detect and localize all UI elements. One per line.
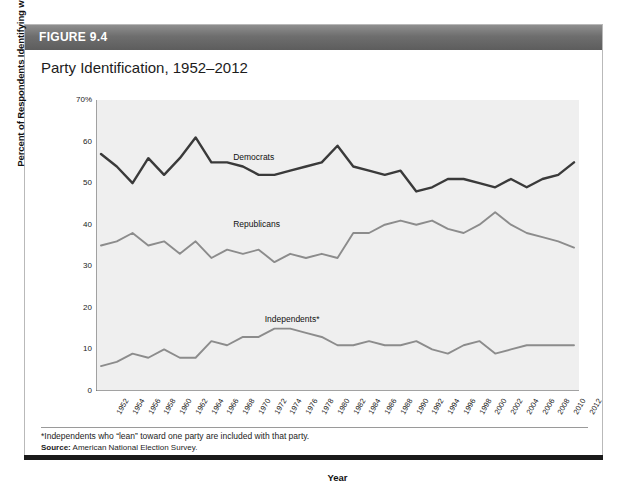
source-label: Source: xyxy=(41,443,71,452)
x-tick-label: 1982 xyxy=(351,397,367,416)
x-tick-label: 2000 xyxy=(493,397,509,416)
x-tick-label: 1976 xyxy=(304,397,320,416)
x-tick-label: 1962 xyxy=(193,397,209,416)
x-tick-label: 2004 xyxy=(524,397,540,416)
x-tick-label: 1954 xyxy=(130,397,146,416)
x-tick-label: 1958 xyxy=(162,397,178,416)
x-tick-label: 2010 xyxy=(572,397,588,416)
y-tick-label: 10 xyxy=(83,344,92,353)
figure-container: FIGURE 9.4 Party Identification, 1952–20… xyxy=(24,24,603,460)
x-tick-label: 2008 xyxy=(556,397,572,416)
chart-plot-area: 010203040506070% 19521954195619581960196… xyxy=(96,100,579,391)
x-tick-label: 1986 xyxy=(382,397,398,416)
series-label-republicans: Republicans xyxy=(233,219,280,229)
y-tick-label: 40 xyxy=(83,220,92,229)
source-line: Source: American National Election Surve… xyxy=(41,443,197,452)
x-tick-label: 1998 xyxy=(477,397,493,416)
figure-number-label: FIGURE 9.4 xyxy=(39,30,107,44)
x-tick-label: 1980 xyxy=(335,397,351,416)
x-tick-label: 1984 xyxy=(367,397,383,416)
x-tick-label: 1994 xyxy=(445,397,461,416)
figure-title: Party Identification, 1952–2012 xyxy=(41,59,248,76)
x-tick-label: 1970 xyxy=(256,397,272,416)
x-tick-label: 2012 xyxy=(587,397,603,416)
y-axis-tick-labels: 010203040506070% xyxy=(62,100,92,391)
x-tick-label: 2006 xyxy=(540,397,556,416)
x-tick-label: 2002 xyxy=(509,397,525,416)
x-tick-label: 1966 xyxy=(225,397,241,416)
x-tick-label: 1978 xyxy=(319,397,335,416)
y-tick-label: 30 xyxy=(83,261,92,270)
y-tick-label: 60 xyxy=(83,137,92,146)
x-tick-label: 1964 xyxy=(209,397,225,416)
x-tick-label: 1972 xyxy=(272,397,288,416)
figure-header-bar: FIGURE 9.4 xyxy=(25,25,602,50)
line-chart xyxy=(96,100,579,391)
bottom-rule xyxy=(24,455,603,460)
x-tick-label: 1992 xyxy=(430,397,446,416)
x-tick-label: 1988 xyxy=(398,397,414,416)
y-tick-label: 50 xyxy=(83,178,92,187)
y-axis-title: Percent of Respondents Identifying with … xyxy=(15,0,26,175)
footnote-text: *Independents who “lean” toward one part… xyxy=(41,431,309,441)
x-tick-label: 1952 xyxy=(114,397,130,416)
x-tick-label: 1974 xyxy=(288,397,304,416)
series-label-independents: Independents* xyxy=(265,314,320,324)
x-tick-label: 1990 xyxy=(414,397,430,416)
footnote-divider xyxy=(41,427,588,428)
y-tick-label: 20 xyxy=(83,303,92,312)
y-tick-label: 0 xyxy=(88,386,92,395)
x-tick-label: 1996 xyxy=(461,397,477,416)
source-text: American National Election Survey. xyxy=(73,443,198,452)
x-tick-label: 1960 xyxy=(177,397,193,416)
x-tick-label: 1956 xyxy=(146,397,162,416)
x-tick-label: 1968 xyxy=(240,397,256,416)
figure-screenshot: FIGURE 9.4 Party Identification, 1952–20… xyxy=(0,0,627,484)
y-tick-label: 70% xyxy=(76,95,92,104)
x-axis-title: Year xyxy=(96,472,579,483)
series-label-democrats: Democrats xyxy=(233,152,274,162)
